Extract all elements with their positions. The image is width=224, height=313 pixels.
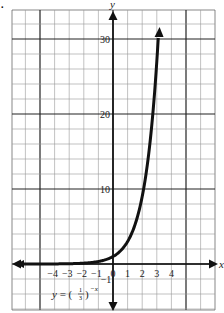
axes: [12, 11, 218, 311]
y-tick-label: 20: [100, 109, 110, 120]
x-axis-arrow-right-icon: [209, 260, 218, 269]
x-tick-label: 4: [169, 268, 174, 279]
exponential-graph: −4−3−2−101234 102030 −1 x y y = ( 1 3 ) …: [0, 0, 224, 313]
corner-mark: .: [1, 0, 4, 10]
eq-denominator: 3: [79, 295, 82, 301]
equation-label: y = ( 1 3 ) −x: [51, 285, 99, 301]
y-tick-neg1: −1: [101, 274, 112, 285]
svg-text:y = (: y = (: [51, 288, 73, 301]
x-axis-label: x: [218, 258, 224, 270]
svg-text:): ): [85, 288, 89, 301]
function-curve: [22, 38, 158, 264]
x-tick-label: −4: [47, 268, 58, 279]
eq-numerator: 1: [79, 287, 82, 293]
y-axis-label: y: [109, 0, 115, 10]
y-axis-arrow-up-icon: [109, 11, 118, 20]
x-tick-label: −3: [62, 268, 73, 279]
eq-exponent: −x: [90, 285, 99, 293]
x-tick-label: 2: [140, 268, 145, 279]
curve-arrow-icon: [155, 27, 164, 37]
y-tick-label: 10: [100, 184, 110, 195]
x-tick-label: 1: [125, 268, 130, 279]
y-tick-labels: 102030: [100, 34, 110, 195]
y-tick-label: 30: [100, 34, 110, 45]
x-tick-label: −2: [76, 268, 87, 279]
x-tick-label: 3: [154, 268, 159, 279]
